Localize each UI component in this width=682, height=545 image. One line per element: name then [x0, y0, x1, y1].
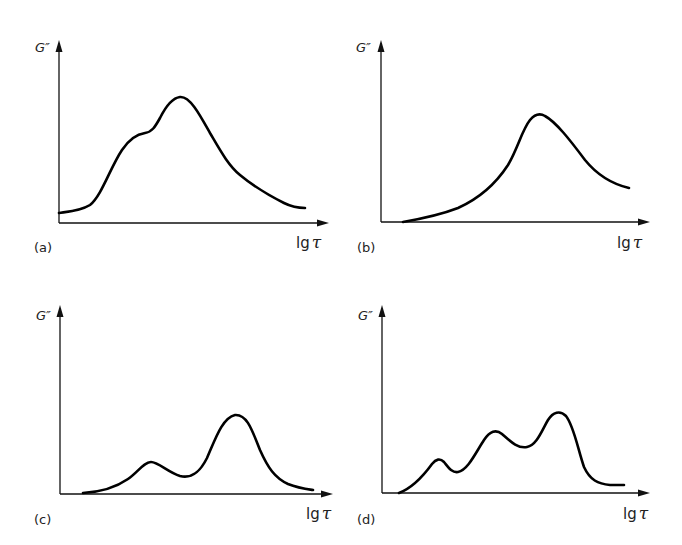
panel-label-d: (d) [357, 512, 375, 527]
x-axis-arrow-icon [638, 490, 650, 497]
curve-b [403, 114, 629, 222]
panel-d: G″ lgτ (d) [357, 305, 650, 527]
panel-label-c: (c) [34, 512, 51, 527]
y-axis-arrow-icon [379, 305, 386, 317]
y-axis-label-d: G″ [358, 308, 373, 323]
x-axis-arrow-icon [321, 491, 333, 498]
panel-label-b: (b) [357, 240, 375, 255]
y-axis-arrow-icon [378, 40, 385, 52]
y-axis-arrow-icon [56, 40, 63, 52]
curve-c [83, 415, 313, 493]
y-axis-label-c: G″ [36, 308, 51, 323]
panel-label-a: (a) [34, 240, 52, 255]
y-axis-label-a: G″ [35, 40, 50, 55]
x-axis-label-a: lgτ [296, 232, 322, 252]
x-axis-label-d: lgτ [623, 503, 649, 523]
curve-d [399, 413, 624, 493]
figure-canvas: G″ lgτ (a) G″ lgτ (b) G″ lgτ (c) G″ lgτ … [0, 0, 682, 545]
x-axis-arrow-icon [638, 219, 650, 226]
y-axis-arrow-icon [57, 305, 64, 317]
y-axis-label-b: G″ [356, 40, 371, 55]
panel-a: G″ lgτ (a) [34, 40, 329, 255]
panel-c: G″ lgτ (c) [34, 305, 333, 527]
x-axis-label-b: lgτ [617, 232, 643, 252]
curve-a [59, 97, 305, 213]
x-axis-arrow-icon [317, 220, 329, 227]
panel-b: G″ lgτ (b) [356, 40, 650, 255]
x-axis-label-c: lgτ [306, 503, 332, 523]
